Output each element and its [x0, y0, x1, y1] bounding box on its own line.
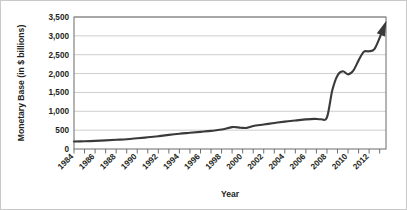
x-tick-label: 2012: [351, 152, 371, 172]
y-tick-label: 3,500: [49, 13, 70, 22]
x-tick-label: 1998: [204, 152, 224, 172]
x-axis-tick-labels: 1984198619881990199219941996199820002002…: [56, 152, 371, 172]
x-tick-label: 2010: [330, 152, 350, 172]
x-tick-label: 2006: [288, 152, 308, 172]
y-tick-label: 2,000: [49, 70, 70, 79]
x-tick-label: 1994: [162, 152, 182, 172]
monetary-base-line-chart: 05001,0001,5002,0002,5003,0003,500 19841…: [1, 1, 407, 210]
y-tick-label: 2,500: [49, 51, 70, 60]
series-arrowhead: [377, 21, 387, 37]
x-tick-label: 1984: [56, 152, 76, 172]
y-axis-title: Monetary Base (in $ billions): [16, 25, 26, 142]
x-axis-title: Year: [221, 189, 240, 199]
x-tick-label: 2002: [246, 152, 266, 172]
series-group: [74, 21, 386, 142]
x-tick-label: 1988: [98, 152, 118, 172]
y-tick-label: 1,500: [49, 88, 70, 97]
x-tick-label: 2000: [225, 152, 245, 172]
chart-image-border: 05001,0001,5002,0002,5003,0003,500 19841…: [0, 0, 407, 210]
data-line: [74, 25, 385, 142]
x-axis-tick-marks: [74, 149, 380, 154]
y-tick-label: 3,000: [49, 32, 70, 41]
x-tick-label: 1990: [119, 152, 139, 172]
y-tick-label: 500: [55, 126, 69, 135]
y-tick-label: 1,000: [49, 107, 70, 116]
chart-stage: 05001,0001,5002,0002,5003,0003,500 19841…: [1, 1, 406, 209]
x-tick-label: 1986: [77, 152, 97, 172]
y-axis-tick-labels: 05001,0001,5002,0002,5003,0003,500: [49, 13, 70, 154]
x-tick-label: 2004: [267, 152, 287, 172]
x-tick-label: 1996: [183, 152, 203, 172]
x-tick-label: 1992: [140, 152, 160, 172]
x-tick-label: 2008: [309, 152, 329, 172]
plot-area-frame: [74, 17, 386, 149]
